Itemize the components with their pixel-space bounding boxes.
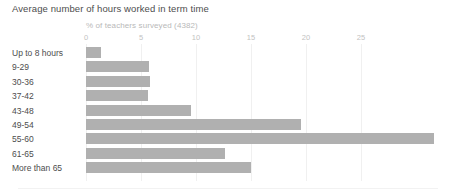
x-tick-label-0: 0 xyxy=(84,33,88,42)
bar[interactable] xyxy=(86,162,251,173)
bar-row: More than 65 xyxy=(0,161,455,175)
plot-area: 0510152025 Up to 8 hours9-2930-3637-4243… xyxy=(0,33,455,183)
bar-row: 9-29 xyxy=(0,60,455,74)
x-tick-label-20: 20 xyxy=(302,33,310,42)
x-tick-label-5: 5 xyxy=(139,33,143,42)
bar[interactable] xyxy=(86,105,191,116)
chart-subtitle: % of teachers surveyed (4382) xyxy=(86,21,198,30)
category-label-61-65: 61-65 xyxy=(12,149,34,159)
category-label-49-54: 49-54 xyxy=(12,120,34,130)
category-label-37-42: 37-42 xyxy=(12,91,34,101)
bottom-divider xyxy=(18,188,438,189)
bar[interactable] xyxy=(86,47,101,58)
chart-title: Average number of hours worked in term t… xyxy=(12,3,209,14)
bar-row: Up to 8 hours xyxy=(0,46,455,60)
category-label-43-48: 43-48 xyxy=(12,106,34,116)
bar-row: 37-42 xyxy=(0,89,455,103)
bar[interactable] xyxy=(86,119,301,130)
bar[interactable] xyxy=(86,148,225,159)
bars-layer: Up to 8 hours9-2930-3637-4243-4849-5455-… xyxy=(0,44,455,181)
category-label-9-29: 9-29 xyxy=(12,62,29,72)
category-label-more-than-65: More than 65 xyxy=(12,163,62,173)
category-label-30-36: 30-36 xyxy=(12,77,34,87)
bar[interactable] xyxy=(86,76,150,87)
x-tick-label-10: 10 xyxy=(192,33,200,42)
category-label-55-60: 55-60 xyxy=(12,134,34,144)
x-tick-label-25: 25 xyxy=(357,33,365,42)
bar[interactable] xyxy=(86,61,149,72)
bar[interactable] xyxy=(86,133,434,144)
bar-row: 61-65 xyxy=(0,147,455,161)
bar-row: 55-60 xyxy=(0,132,455,146)
bar-row: 43-48 xyxy=(0,104,455,118)
x-tick-label-15: 15 xyxy=(247,33,255,42)
category-label-up-to-8-hours: Up to 8 hours xyxy=(12,48,63,58)
chart-card: Average number of hours worked in term t… xyxy=(0,0,455,195)
bar[interactable] xyxy=(86,90,148,101)
bar-row: 49-54 xyxy=(0,118,455,132)
bar-row: 30-36 xyxy=(0,75,455,89)
